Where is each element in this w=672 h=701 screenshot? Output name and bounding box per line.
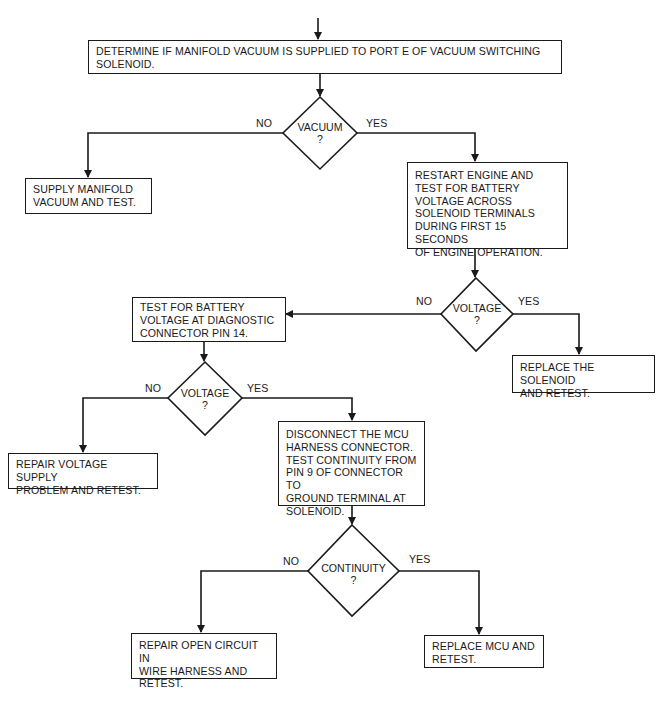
voltage-1-yes-label: YES <box>518 295 539 307</box>
supply-vacuum-box: SUPPLY MANIFOLD VACUUM AND TEST. <box>25 178 152 214</box>
replace-mcu-box: REPLACE MCU AND RETEST. <box>424 635 544 668</box>
continuity-decision-label: CONTINUITY ? <box>308 562 399 586</box>
start-box: DETERMINE IF MANIFOLD VACUUM IS SUPPLIED… <box>88 40 562 74</box>
repair-voltage-supply-box: REPAIR VOLTAGE SUPPLY PROBLEM AND RETEST… <box>8 453 158 489</box>
continuity-no-label: NO <box>283 555 299 567</box>
connector-lines <box>0 0 672 701</box>
vacuum-no-label: NO <box>256 117 272 129</box>
test-pin14-box: TEST FOR BATTERY VOLTAGE AT DIAGNOSTIC C… <box>132 297 286 342</box>
disconnect-mcu-box: DISCONNECT THE MCU HARNESS CONNECTOR. TE… <box>278 421 425 506</box>
vacuum-yes-label: YES <box>366 117 387 129</box>
restart-engine-box: RESTART ENGINE AND TEST FOR BATTERY VOLT… <box>407 162 568 249</box>
voltage-1-no-label: NO <box>416 295 432 307</box>
voltage-2-no-label: NO <box>145 382 161 394</box>
repair-open-circuit-box: REPAIR OPEN CIRCUIT IN WIRE HARNESS AND … <box>131 633 277 679</box>
replace-solenoid-box: REPLACE THE SOLENOID AND RETEST. <box>512 355 655 393</box>
continuity-yes-label: YES <box>409 553 430 565</box>
voltage-2-yes-label: YES <box>247 382 268 394</box>
voltage-decision-2-label: VOLTAGE ? <box>168 387 242 411</box>
flowchart: DETERMINE IF MANIFOLD VACUUM IS SUPPLIED… <box>0 0 672 701</box>
vacuum-decision-label: VACUUM ? <box>283 121 357 145</box>
voltage-decision-1-label: VOLTAGE ? <box>441 302 513 326</box>
